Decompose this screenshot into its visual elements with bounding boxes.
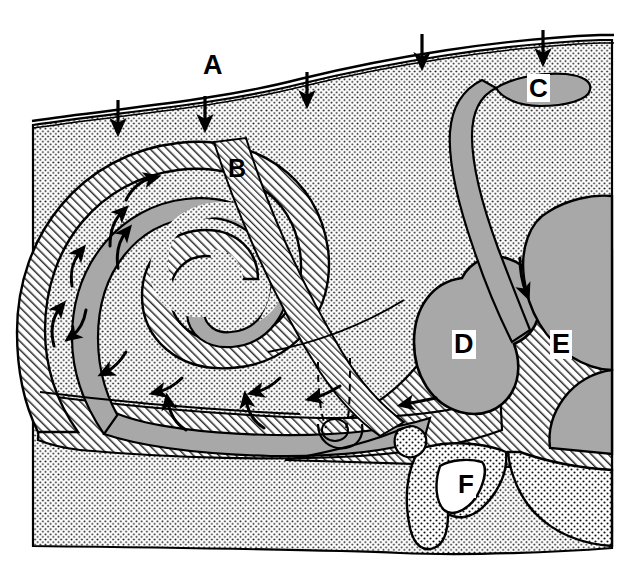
label-b: B (228, 156, 246, 181)
label-d: D (452, 330, 476, 359)
label-c: C (527, 74, 550, 102)
diagram-canvas (0, 0, 618, 578)
label-e: E (550, 330, 572, 359)
label-a: A (203, 52, 223, 79)
inner-ear-diagram: A B C D E F (0, 0, 618, 578)
label-f: F (456, 470, 476, 498)
